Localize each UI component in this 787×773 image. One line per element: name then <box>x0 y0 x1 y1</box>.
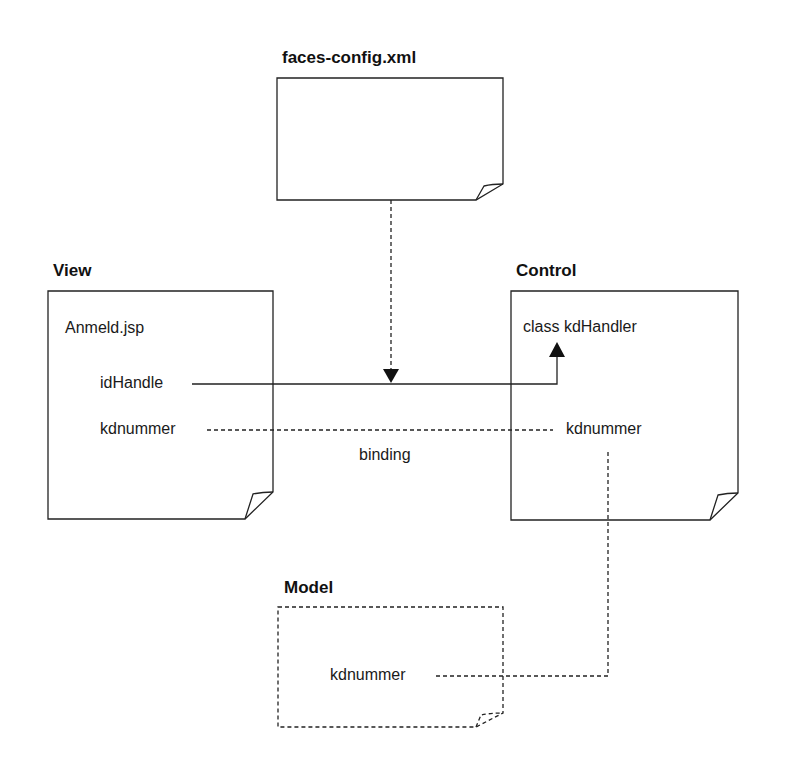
control-title: Control <box>516 261 576 281</box>
view-file-label: Anmeld.jsp <box>65 319 144 337</box>
view-kdnummer-field: kdnummer <box>100 420 176 438</box>
control-class-label: class kdHandler <box>523 318 637 336</box>
faces-config-title: faces-config.xml <box>282 48 416 68</box>
model-kdnummer-field: kdnummer <box>330 666 406 684</box>
control-kdnummer-field: kdnummer <box>566 420 642 438</box>
binding-label: binding <box>359 446 411 464</box>
model-title: Model <box>284 578 333 598</box>
faces-config-document-icon <box>277 78 503 200</box>
arrow-down-icon <box>383 369 399 383</box>
view-idhandle-field: idHandle <box>100 374 163 392</box>
view-title: View <box>53 261 91 281</box>
